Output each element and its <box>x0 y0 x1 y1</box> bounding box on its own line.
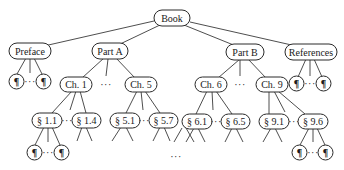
node-references-paragraph-first: ¶ <box>289 76 304 91</box>
node-ch6-label: Ch. 6 <box>200 79 222 90</box>
node-s9-6-label: § 9.6 <box>303 116 323 127</box>
node-s9-6: § 9.6 <box>298 114 328 129</box>
node-s1-4: § 1.4 <box>72 113 101 128</box>
svg-text:···: ··· <box>138 115 150 126</box>
node-part-b: Part B <box>226 44 264 60</box>
node-references-paragraph-last: ¶ <box>316 76 331 91</box>
node-ch9-label: Ch. 9 <box>261 79 283 90</box>
node-preface-paragraph-first: ¶ <box>9 74 24 89</box>
node-s5-7: § 5.7 <box>149 113 178 128</box>
node-references: References <box>285 44 337 60</box>
node-book: Book <box>154 10 190 26</box>
node-s6-1-label: § 6.1 <box>187 116 207 127</box>
pilcrow-icon: ¶ <box>294 78 299 89</box>
svg-text:···: ··· <box>210 116 222 127</box>
svg-text:···: ··· <box>307 147 319 158</box>
node-s6-1: § 6.1 <box>182 114 212 129</box>
ellipsis-preface: ··· <box>24 76 36 87</box>
node-s9-6-paragraph-first: ¶ <box>292 145 307 160</box>
node-s1-1-paragraph-last: ¶ <box>54 145 69 160</box>
node-part-a-label: Part A <box>97 46 123 57</box>
node-part-b-label: Part B <box>232 47 258 58</box>
node-s5-1: § 5.1 <box>110 113 140 128</box>
node-s5-7-label: § 5.7 <box>154 115 174 126</box>
pilcrow-icon: ¶ <box>41 76 46 87</box>
ellipsis-center: ··· <box>170 151 182 162</box>
node-ch6: Ch. 6 <box>195 77 227 92</box>
svg-text:···: ··· <box>304 78 316 89</box>
node-s6-5-label: § 6.5 <box>226 116 246 127</box>
node-book-label: Book <box>161 13 183 24</box>
node-s6-5: § 6.5 <box>221 114 250 129</box>
ellipsis-part-b: ··· <box>234 79 246 90</box>
node-preface-label: Preface <box>15 46 46 57</box>
ellipsis-ch1: ··· <box>61 115 73 126</box>
node-part-a: Part A <box>92 43 128 59</box>
ellipsis-ch5: ··· <box>138 115 150 126</box>
node-s9-1: § 9.1 <box>259 114 289 129</box>
node-s9-6-paragraph-last: ¶ <box>318 145 333 160</box>
ellipsis-s1-1: ··· <box>42 147 54 158</box>
pilcrow-icon: ¶ <box>321 78 326 89</box>
ellipsis-ch6: ··· <box>210 116 222 127</box>
node-s1-1-paragraph-first: ¶ <box>27 145 42 160</box>
ellipsis-references: ··· <box>304 78 316 89</box>
node-s5-1-label: § 5.1 <box>115 115 135 126</box>
pilcrow-icon: ¶ <box>32 147 37 158</box>
node-preface-paragraph-last: ¶ <box>36 74 51 89</box>
pilcrow-icon: ¶ <box>297 147 302 158</box>
node-s1-4-label: § 1.4 <box>77 115 97 126</box>
node-preface: Preface <box>9 43 51 59</box>
node-ch1-label: Ch. 1 <box>65 79 87 90</box>
node-s1-1-label: § 1.1 <box>37 115 57 126</box>
node-references-label: References <box>289 47 334 58</box>
book-tree-diagram: Book Preface Part A Part B References ¶ … <box>0 0 344 170</box>
svg-text:···: ··· <box>61 115 73 126</box>
node-ch5: Ch. 5 <box>125 77 157 92</box>
svg-text:···: ··· <box>24 76 36 87</box>
node-ch5-label: Ch. 5 <box>130 79 152 90</box>
ellipsis-part-a: ··· <box>100 79 112 90</box>
node-ch9: Ch. 9 <box>256 77 288 92</box>
node-s9-1-label: § 9.1 <box>264 116 284 127</box>
node-ch1: Ch. 1 <box>60 77 92 92</box>
node-s1-1: § 1.1 <box>32 113 62 128</box>
pilcrow-icon: ¶ <box>323 147 328 158</box>
ellipsis-s9-6: ··· <box>307 147 319 158</box>
svg-text:···: ··· <box>170 151 182 162</box>
pilcrow-icon: ¶ <box>14 76 19 87</box>
svg-text:···: ··· <box>100 79 112 90</box>
svg-text:···: ··· <box>42 147 54 158</box>
svg-text:···: ··· <box>234 79 246 90</box>
pilcrow-icon: ¶ <box>59 147 64 158</box>
